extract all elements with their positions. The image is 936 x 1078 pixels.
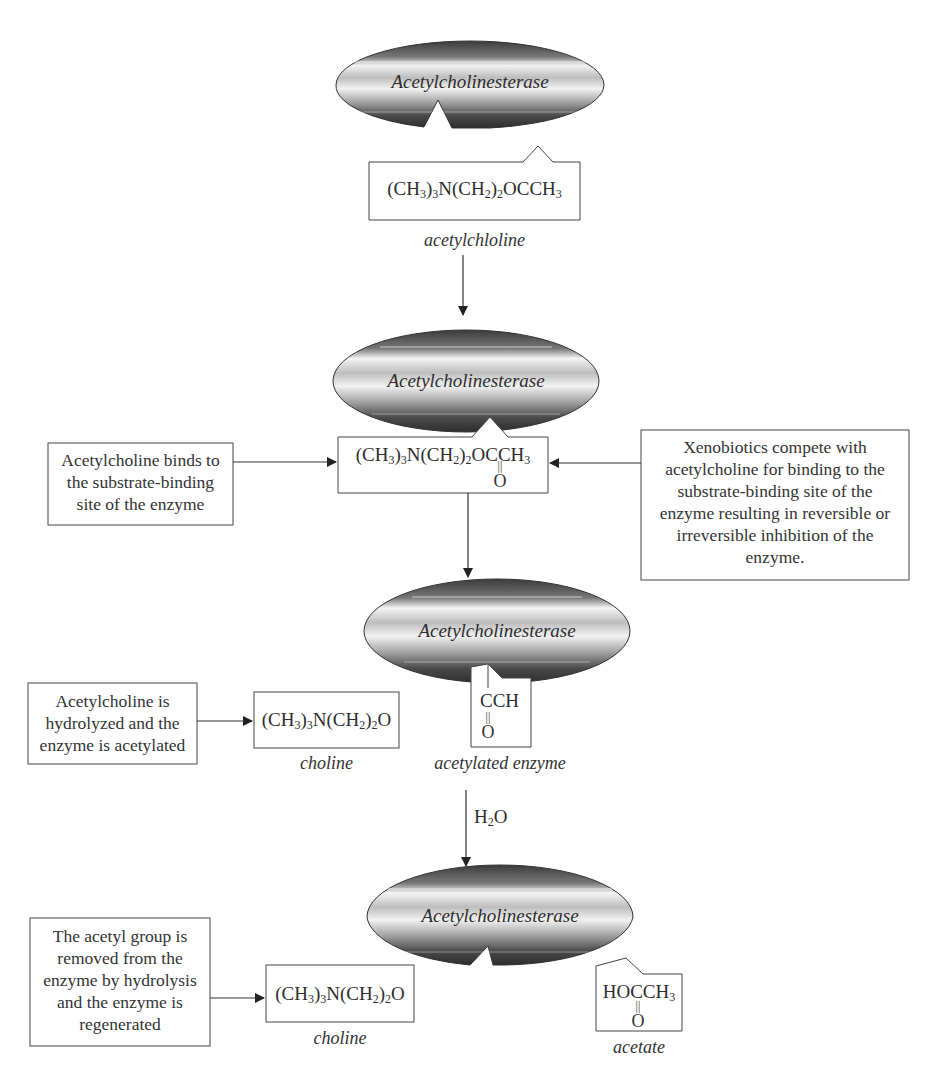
choline-formula-4: (CH3)3N(CH2)2O bbox=[266, 983, 414, 1005]
substrate-name: acetylchloline bbox=[369, 229, 580, 251]
regeneration-note: The acetyl group is removed from the enz… bbox=[30, 925, 210, 1035]
choline-formula-3: (CH3)3N(CH2)2O bbox=[254, 709, 399, 731]
acetylated-enzyme-name: acetylated enzyme bbox=[420, 752, 580, 774]
binding-note: Acetylcholine binds to the substrate-bin… bbox=[48, 449, 233, 515]
acetate-name: acetate bbox=[596, 1036, 682, 1058]
water-reagent: H2O bbox=[474, 806, 514, 828]
carbonyl-oxygen: O bbox=[490, 470, 510, 492]
enzyme-label-2: Acetylcholinesterase bbox=[333, 370, 599, 392]
acyl-formula: CCH bbox=[480, 690, 530, 712]
acetate-oxygen: O bbox=[628, 1010, 648, 1032]
choline-name-4: choline bbox=[266, 1027, 414, 1049]
enzyme-label-4: Acetylcholinesterase bbox=[367, 905, 633, 927]
xenobiotic-note: Xenobiotics compete with acetylcholine f… bbox=[641, 436, 909, 568]
hydrolysis-note: Acetylcholine is hydrolyzed and the enzy… bbox=[28, 690, 197, 756]
choline-name-3: choline bbox=[254, 752, 399, 774]
bound-substrate-formula: (CH3)3N(CH2)2OCCH3 bbox=[338, 444, 548, 466]
substrate-formula: (CH3)3N(CH2)2OCCH3 bbox=[369, 178, 580, 200]
enzyme-label-1: Acetylcholinesterase bbox=[336, 71, 604, 93]
acyl-oxygen: O bbox=[478, 721, 498, 743]
enzyme-label-3: Acetylcholinesterase bbox=[364, 620, 630, 642]
